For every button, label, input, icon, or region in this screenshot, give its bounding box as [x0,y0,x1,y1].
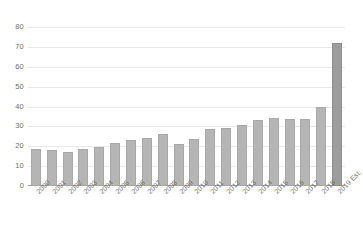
x-tick-slot: 2016 [282,188,298,234]
bar-2011[interactable] [205,129,215,186]
bar-2006[interactable] [126,140,136,187]
bar-2007[interactable] [142,138,152,186]
x-tick-slot: 2017 [297,188,313,234]
x-tick-slot: 2018 [313,188,329,234]
x-tick-slot: 2009 [171,188,187,234]
y-axis-tick-label: 10 [2,162,24,170]
bar-2005[interactable] [110,143,120,186]
bar-slot [139,27,155,186]
bar-slot [60,27,76,186]
bar-slot [155,27,171,186]
x-tick-slot: 2007 [139,188,155,234]
x-tick-slot: 2004 [91,188,107,234]
y-axis-tick-label: 40 [2,103,24,111]
bar-2013[interactable] [237,125,247,186]
y-axis-tick-label: 50 [2,83,24,91]
x-tick-slot: 2011 [202,188,218,234]
bar-2014[interactable] [253,120,263,186]
bar-slot [123,27,139,186]
x-tick-slot: 2014 [250,188,266,234]
x-axis: 2000200120022003200420052006200720082009… [28,188,345,234]
bar-slot [44,27,60,186]
x-tick-slot: 2008 [155,188,171,234]
x-tick-slot: 2012 [218,188,234,234]
x-tick-slot: 2001 [44,188,60,234]
bar-slot [91,27,107,186]
bar-slot [76,27,92,186]
bar-slot [28,27,44,186]
y-axis-tick-label: 80 [2,23,24,31]
bar-slot [282,27,298,186]
bar-2015[interactable] [269,118,279,186]
y-axis-tick-label: 20 [2,142,24,150]
x-tick-slot: 2006 [123,188,139,234]
bar-2017[interactable] [300,119,310,186]
bar-2010[interactable] [189,139,199,186]
y-axis-tick-label: 70 [2,43,24,51]
bar-slot [234,27,250,186]
x-tick-slot: 2010 [187,188,203,234]
x-tick-slot: 2005 [107,188,123,234]
y-axis: 01020304050607080 [0,27,24,186]
bar-slot [187,27,203,186]
y-axis-tick-label: 60 [2,63,24,71]
y-axis-tick-label: 30 [2,122,24,130]
bar-2008[interactable] [158,134,168,186]
bar-2004[interactable] [94,147,104,186]
bar-2019-est-[interactable] [332,43,342,186]
x-tick-slot: 2019 Est. [329,188,345,234]
x-tick-slot: 2015 [266,188,282,234]
bar-slot [297,27,313,186]
bars-layer [28,27,345,186]
bar-2018[interactable] [316,107,326,187]
bar-2016[interactable] [285,119,295,186]
x-tick-slot: 2003 [76,188,92,234]
x-tick-slot: 2002 [60,188,76,234]
bar-2012[interactable] [221,128,231,186]
bar-slot [329,27,345,186]
bar-slot [171,27,187,186]
bar-slot [313,27,329,186]
bar-2000[interactable] [31,149,41,186]
y-axis-tick-label: 0 [2,182,24,190]
bar-slot [202,27,218,186]
x-tick-slot: 2000 [28,188,44,234]
bar-slot [218,27,234,186]
bar-slot [250,27,266,186]
bar-slot [107,27,123,186]
bar-slot [266,27,282,186]
x-tick-slot: 2013 [234,188,250,234]
